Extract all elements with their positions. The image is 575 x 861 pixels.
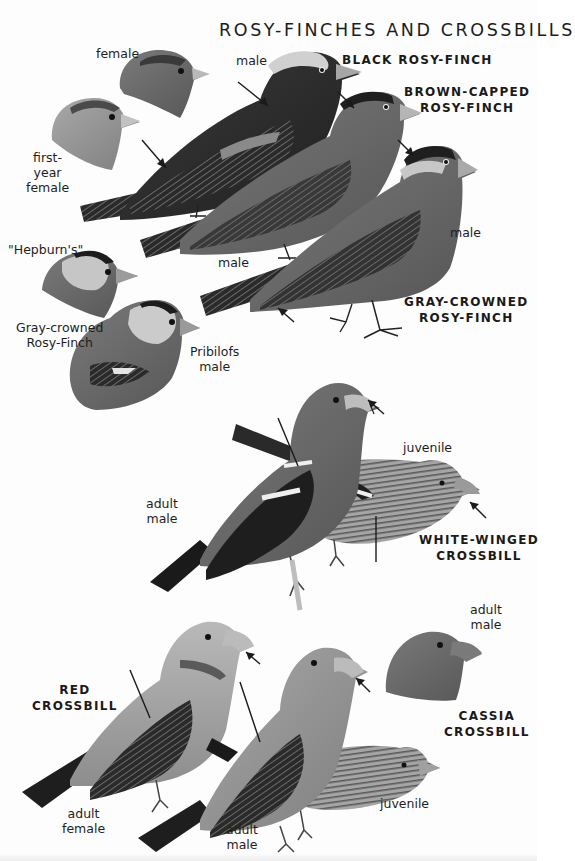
species-gray-crowned-rosy-finch: GRAY-CROWNED ROSY-FINCH bbox=[404, 294, 528, 326]
label-red-crossbill-adult-female: adult female bbox=[62, 806, 105, 836]
cassia-crossbill-adult-male-head bbox=[386, 632, 482, 701]
species-red-crossbill: RED CROSSBILL bbox=[32, 682, 118, 714]
label-white-winged-adult-male: adult male bbox=[146, 496, 178, 526]
label-cassia-adult-male: adult male bbox=[470, 602, 502, 632]
label-gray-crowned-male: male bbox=[450, 225, 481, 240]
species-black-rosy-finch: BLACK ROSY-FINCH bbox=[342, 52, 493, 68]
white-winged-crossbill-adult-male bbox=[150, 383, 380, 610]
label-pribilofs-male: Pribilofs male bbox=[190, 344, 239, 374]
label-red-crossbill-juvenile: juvenile bbox=[380, 796, 429, 811]
pribilofs-male-body bbox=[70, 300, 200, 410]
label-black-rosy-finch-female: female bbox=[96, 46, 139, 61]
red-crossbill-adult-female bbox=[22, 622, 254, 812]
species-white-winged-crossbill: WHITE-WINGED CROSSBILL bbox=[419, 532, 539, 564]
species-cassia-crossbill: CASSIA CROSSBILL bbox=[444, 708, 530, 740]
label-first-year-female: first- year female bbox=[26, 150, 69, 195]
page-title: ROSY-FINCHES AND CROSSBILLS bbox=[219, 20, 575, 40]
page-edge bbox=[0, 853, 537, 861]
label-hepburns: "Hepburn's" bbox=[8, 242, 83, 257]
label-white-winged-juvenile: juvenile bbox=[403, 440, 452, 455]
label-gray-crowned-rosy-finch-form: Gray-crowned Rosy-Finch bbox=[16, 320, 103, 350]
label-brown-capped-male: male bbox=[218, 255, 249, 270]
label-red-crossbill-adult-male: adult male bbox=[226, 822, 258, 852]
species-brown-capped-rosy-finch: BROWN-CAPPED ROSY-FINCH bbox=[404, 84, 530, 116]
label-black-rosy-finch-male: male bbox=[236, 53, 267, 68]
